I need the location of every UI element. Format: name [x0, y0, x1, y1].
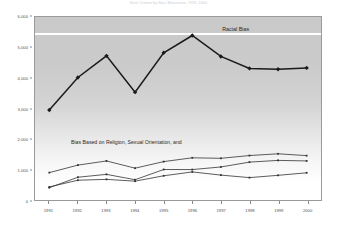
- data-point-marker: [106, 160, 108, 162]
- data-point-marker: [163, 175, 165, 177]
- data-point-marker: [306, 160, 308, 162]
- data-point-marker: [277, 159, 279, 161]
- data-point-marker: [134, 180, 136, 182]
- y-tick-mark: [30, 46, 33, 47]
- y-tick-mark: [30, 16, 33, 17]
- x-tick-label: 1995: [159, 208, 168, 213]
- series-layer: [35, 17, 321, 201]
- annotation-lower-group: Bias Based on Religion, Sexual Orientati…: [71, 139, 182, 145]
- data-point-marker: [306, 172, 308, 174]
- data-point-marker: [220, 166, 222, 168]
- data-point-marker: [106, 178, 108, 180]
- x-tick-label: 1998: [245, 208, 254, 213]
- data-point-marker: [106, 173, 108, 175]
- data-point-marker: [306, 155, 308, 157]
- data-point-marker: [304, 66, 308, 70]
- data-point-marker: [163, 169, 165, 171]
- y-tick-label: 5,000: [18, 44, 28, 49]
- plot-area: Racial Bias Bias Based on Religion, Sexu…: [34, 16, 322, 201]
- x-axis: 1991199219931994199519961997199819992000: [34, 205, 322, 219]
- y-tick-mark: [30, 170, 33, 171]
- chart-figure: Hate Crimes by Bias Motivation, 1991-200…: [0, 0, 337, 233]
- x-tick-label: 1996: [188, 208, 197, 213]
- data-point-marker: [220, 157, 222, 159]
- x-tick-mark: [48, 201, 49, 204]
- x-tick-mark: [77, 201, 78, 204]
- data-point-marker: [277, 174, 279, 176]
- data-point-marker: [163, 161, 165, 163]
- x-tick-mark: [279, 201, 280, 204]
- x-tick-mark: [106, 201, 107, 204]
- y-tick-label: 1,000: [18, 168, 28, 173]
- y-tick-label: 2,000: [18, 137, 28, 142]
- y-tick-label: 4,000: [18, 75, 28, 80]
- x-tick-mark: [308, 201, 309, 204]
- x-tick-mark: [250, 201, 251, 204]
- x-tick-label: 1992: [73, 208, 82, 213]
- data-point-marker: [77, 164, 79, 166]
- data-point-marker: [48, 186, 50, 188]
- x-tick-label: 1991: [44, 208, 53, 213]
- x-tick-mark: [164, 201, 165, 204]
- series-ethnicity: [48, 171, 307, 188]
- series-line: [49, 172, 306, 187]
- data-point-marker: [77, 179, 79, 181]
- data-point-marker: [48, 172, 50, 174]
- x-tick-label: 1999: [274, 208, 283, 213]
- x-tick-mark: [135, 201, 136, 204]
- y-tick-mark: [30, 108, 33, 109]
- y-tick-mark: [30, 201, 33, 202]
- annotation-racial-bias: Racial Bias: [222, 26, 249, 32]
- y-tick-mark: [30, 77, 33, 78]
- data-point-marker: [249, 177, 251, 179]
- data-point-marker: [134, 167, 136, 169]
- x-tick-mark: [192, 201, 193, 204]
- y-tick-mark: [30, 139, 33, 140]
- data-point-marker: [191, 171, 193, 173]
- data-point-marker: [191, 157, 193, 159]
- y-axis: 01,0002,0003,0004,0005,0006,000: [0, 16, 32, 201]
- data-point-marker: [247, 66, 251, 70]
- data-point-marker: [249, 155, 251, 157]
- x-tick-label: 1993: [101, 208, 110, 213]
- data-point-marker: [220, 174, 222, 176]
- series-racial-bias: [47, 33, 309, 112]
- x-tick-label: 1994: [130, 208, 139, 213]
- data-point-marker: [277, 153, 279, 155]
- data-point-marker: [191, 169, 193, 171]
- series-religion: [48, 153, 307, 174]
- y-tick-label: 0: [26, 199, 28, 204]
- chart-title: Hate Crimes by Bias Motivation, 1991-200…: [0, 1, 337, 5]
- y-tick-label: 6,000: [18, 14, 28, 19]
- x-tick-mark: [221, 201, 222, 204]
- series-line: [49, 35, 306, 109]
- x-tick-label: 2000: [303, 208, 312, 213]
- x-tick-label: 1997: [217, 208, 226, 213]
- y-tick-label: 3,000: [18, 106, 28, 111]
- data-point-marker: [249, 161, 251, 163]
- data-point-marker: [77, 176, 79, 178]
- data-point-marker: [276, 67, 280, 71]
